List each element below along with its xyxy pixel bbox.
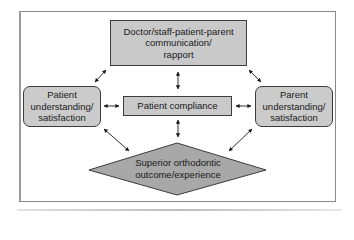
parent-line-3: satisfaction — [270, 112, 318, 124]
communication-rapport-box: Doctor/staff-patient-parent communicatio… — [110, 20, 247, 66]
parent-line-2: understanding/ — [263, 101, 326, 113]
outcome-diamond-label: Superior orthodontic outcome/experience — [119, 157, 237, 180]
outcome-line-2: outcome/experience — [119, 169, 237, 181]
patient-line-3: satisfaction — [38, 112, 86, 124]
compliance-label: Patient compliance — [137, 100, 217, 112]
arrow-top-left — [95, 70, 106, 82]
parent-line-1: Parent — [280, 89, 308, 101]
outcome-line-1: Superior orthodontic — [119, 157, 237, 169]
patient-line-2: understanding/ — [31, 101, 94, 113]
communication-line-3: rapport — [163, 49, 193, 61]
parent-understanding-box: Parent understanding/ satisfaction — [255, 86, 333, 127]
patient-line-1: Patient — [47, 89, 77, 101]
footer-divider — [17, 209, 342, 211]
arrow-left-bottom — [104, 129, 129, 151]
patient-compliance-box: Patient compliance — [123, 96, 232, 116]
communication-line-1: Doctor/staff-patient-parent — [123, 26, 233, 38]
arrow-top-right — [249, 70, 261, 82]
patient-understanding-box: Patient understanding/ satisfaction — [23, 86, 101, 127]
arrow-right-bottom — [229, 129, 252, 151]
communication-line-2: communication/ — [145, 37, 212, 49]
